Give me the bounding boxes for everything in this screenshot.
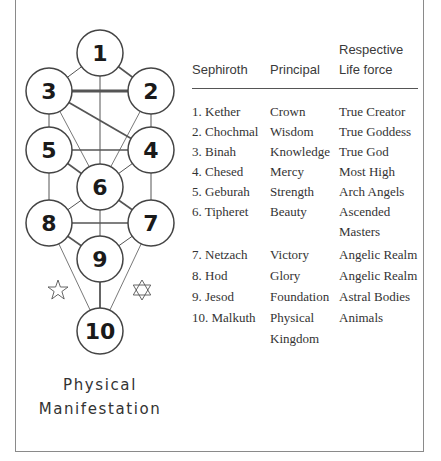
svg-text:8: 8 (41, 211, 56, 236)
caption-line-2: Manifestation (20, 400, 180, 418)
svg-text:2: 2 (143, 79, 158, 104)
node-6: 6 (77, 164, 123, 210)
caption-line-1: Physical (20, 376, 180, 394)
cell-principal: Mercy (270, 162, 304, 182)
cell-sephiroth: 4. Chesed (192, 162, 243, 182)
cell-lifeforce: Angelic Realm (339, 245, 417, 265)
cell-sephiroth: 9. Jesod (192, 287, 234, 307)
cell-lifeforce: True Creator (339, 102, 405, 122)
cell-sephiroth: 3. Binah (192, 142, 236, 162)
cell-sephiroth: 2. Chochmal (192, 122, 258, 142)
header-divider (192, 88, 418, 89)
cell-principal: Physical (270, 308, 314, 328)
svg-text:9: 9 (92, 247, 107, 272)
header-lifeforce-line2: Life force (339, 60, 392, 79)
cell-sephiroth: 5. Geburah (192, 182, 250, 202)
node-1: 1 (77, 30, 123, 76)
header-principal: Principal (270, 60, 320, 79)
cell-principal: Knowledge (270, 142, 330, 162)
header-sephiroth: Sephiroth (192, 60, 248, 79)
cell-principal-cont: Kingdom (270, 329, 319, 349)
node-7: 7 (128, 200, 174, 246)
node-2: 2 (128, 68, 174, 114)
svg-text:10: 10 (85, 319, 116, 344)
six-point-star-icon (133, 280, 150, 300)
cell-sephiroth: 10. Malkuth (192, 308, 256, 328)
svg-text:1: 1 (92, 41, 107, 66)
node-9: 9 (77, 236, 123, 282)
header-lifeforce-line1: Respective (339, 40, 403, 59)
cell-principal: Wisdom (270, 122, 314, 142)
node-5: 5 (26, 127, 72, 173)
cell-sephiroth: 1. Kether (192, 102, 240, 122)
cell-lifeforce: Astral Bodies (339, 287, 410, 307)
node-10: 10 (77, 308, 123, 354)
cell-principal: Crown (270, 102, 305, 122)
cell-lifeforce: Arch Angels (339, 182, 404, 202)
cell-lifeforce: Animals (339, 308, 383, 328)
cell-principal: Victory (270, 245, 309, 265)
node-8: 8 (26, 200, 72, 246)
svg-text:3: 3 (41, 79, 56, 104)
svg-text:7: 7 (143, 211, 158, 236)
node-4: 4 (128, 127, 174, 173)
cell-sephiroth: 7. Netzach (192, 245, 248, 265)
cell-sephiroth: 6. Tipheret (192, 202, 248, 222)
cell-principal: Beauty (270, 202, 307, 222)
cell-lifeforce: Most High (339, 162, 395, 182)
cell-lifeforce: True God (339, 142, 389, 162)
cell-lifeforce: True Goddess (339, 122, 411, 142)
cell-principal: Strength (270, 182, 314, 202)
cell-lifeforce: Angelic Realm (339, 266, 417, 286)
tree-of-life-diagram: 1 2 3 4 5 6 7 8 9 10 (0, 0, 200, 370)
cell-sephiroth: 8. Hod (192, 266, 227, 286)
five-point-star-icon (48, 280, 68, 299)
node-3: 3 (26, 68, 72, 114)
svg-text:6: 6 (92, 175, 107, 200)
cell-lifeforce: Ascended (339, 202, 390, 222)
cell-lifeforce-cont: Masters (339, 222, 380, 242)
cell-principal: Foundation (270, 287, 329, 307)
svg-text:4: 4 (143, 138, 158, 163)
cell-principal: Glory (270, 266, 300, 286)
svg-text:5: 5 (41, 138, 56, 163)
